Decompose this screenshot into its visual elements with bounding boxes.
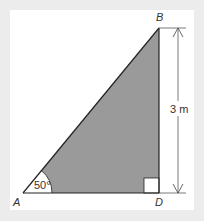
- vertex-label-b: B: [156, 11, 163, 23]
- vertex-label-d: D: [155, 196, 163, 208]
- vertex-label-a: A: [12, 196, 20, 208]
- side-length-label: 3 m: [170, 103, 188, 115]
- angle-label-a: 50°: [34, 179, 51, 191]
- triangle-diagram: B A D 50° 3 m: [0, 0, 204, 221]
- right-angle-marker: [144, 178, 159, 193]
